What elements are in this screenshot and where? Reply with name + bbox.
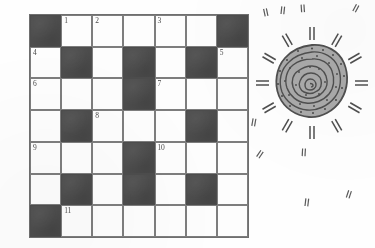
cell-clue-number: 1 — [64, 16, 68, 26]
crossword-open-cell[interactable] — [61, 142, 92, 174]
crossword-open-cell[interactable] — [217, 205, 248, 237]
crossword-block-cell — [30, 15, 61, 47]
crossword-open-cell[interactable] — [92, 142, 123, 174]
crossword-open-cell[interactable] — [123, 15, 154, 47]
crossword-block-cell — [61, 174, 92, 206]
crossword-open-cell[interactable]: 11 — [61, 205, 92, 237]
speckle-mark — [350, 3, 361, 15]
crossword-block-cell — [123, 78, 154, 110]
crossword-block-cell — [186, 174, 217, 206]
scanned-page: 1234567891011 — [0, 0, 375, 248]
crossword-open-cell[interactable] — [123, 110, 154, 142]
crossword-open-cell[interactable]: 10 — [155, 142, 186, 174]
cell-clue-number: 11 — [64, 206, 71, 216]
crossword-block-cell — [123, 47, 154, 79]
crossword-block-cell — [217, 15, 248, 47]
crossword-block-cell — [61, 47, 92, 79]
cell-clue-number: 10 — [158, 143, 165, 153]
crossword-open-cell[interactable] — [92, 174, 123, 206]
spiral-sun-petroglyph — [253, 24, 371, 142]
crossword-open-cell[interactable]: 6 — [30, 78, 61, 110]
speckle-mark — [279, 6, 288, 16]
crossword-open-cell[interactable] — [217, 78, 248, 110]
cell-clue-number: 8 — [95, 111, 99, 121]
crossword-open-cell[interactable] — [217, 110, 248, 142]
crossword-open-cell[interactable] — [186, 78, 217, 110]
crossword-block-cell — [186, 110, 217, 142]
cell-clue-number: 6 — [33, 79, 37, 89]
speckle-mark — [254, 149, 266, 161]
cell-clue-number: 2 — [95, 16, 99, 26]
crossword-open-cell[interactable] — [186, 15, 217, 47]
crossword-open-cell[interactable] — [61, 78, 92, 110]
crossword-open-cell[interactable]: 9 — [30, 142, 61, 174]
crossword-open-cell[interactable]: 2 — [92, 15, 123, 47]
crossword-block-cell — [186, 47, 217, 79]
crossword-open-cell[interactable] — [155, 47, 186, 79]
crossword-open-cell[interactable] — [186, 142, 217, 174]
crossword-open-cell[interactable] — [30, 174, 61, 206]
crossword-open-cell[interactable]: 7 — [155, 78, 186, 110]
crossword-open-cell[interactable] — [30, 110, 61, 142]
sun-disc — [276, 45, 347, 117]
crossword-open-cell[interactable] — [217, 142, 248, 174]
speckle-mark — [299, 4, 308, 14]
cell-clue-number: 9 — [33, 143, 37, 153]
speckle-mark — [302, 198, 311, 208]
speckle-mark — [261, 7, 271, 17]
speckle-mark — [300, 148, 308, 157]
crossword-open-cell[interactable] — [186, 205, 217, 237]
crossword-open-cell[interactable]: 8 — [92, 110, 123, 142]
crossword-open-cell[interactable]: 5 — [217, 47, 248, 79]
crossword-block-cell — [61, 110, 92, 142]
crossword-grid[interactable]: 1234567891011 — [29, 14, 249, 238]
crossword-block-cell — [30, 205, 61, 237]
cell-clue-number: 4 — [33, 48, 37, 58]
crossword-open-cell[interactable] — [217, 174, 248, 206]
crossword-open-cell[interactable] — [155, 205, 186, 237]
crossword-open-cell[interactable]: 1 — [61, 15, 92, 47]
crossword-block-cell — [123, 174, 154, 206]
crossword-open-cell[interactable]: 3 — [155, 15, 186, 47]
crossword-block-cell — [123, 142, 154, 174]
crossword-open-cell[interactable] — [92, 205, 123, 237]
speckle-mark — [249, 117, 258, 127]
crossword-open-cell[interactable]: 4 — [30, 47, 61, 79]
speckle-mark — [344, 189, 354, 200]
crossword-open-cell[interactable] — [155, 110, 186, 142]
crossword-open-cell[interactable] — [92, 78, 123, 110]
cell-clue-number: 5 — [220, 48, 224, 58]
cell-clue-number: 3 — [158, 16, 162, 26]
crossword-open-cell[interactable] — [92, 47, 123, 79]
cell-clue-number: 7 — [158, 79, 162, 89]
crossword-open-cell[interactable] — [123, 205, 154, 237]
crossword-open-cell[interactable] — [155, 174, 186, 206]
